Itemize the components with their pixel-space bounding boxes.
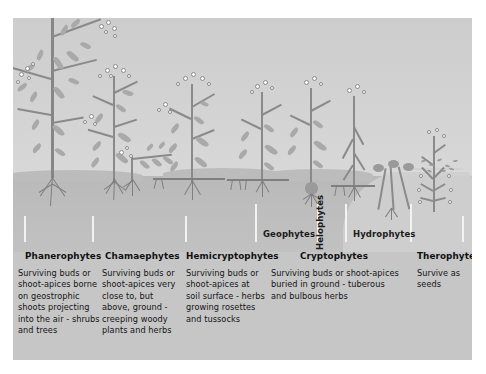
tick-mark [462, 216, 464, 242]
tick-mark [24, 216, 26, 242]
floating-leaf [388, 160, 399, 168]
column-label-hemicryptophytes: Hemicryptophytes [186, 251, 279, 261]
diagram-panel: Geophytes Helophytes Hydrophytes Phanero… [13, 18, 472, 360]
tick-mark [345, 204, 347, 242]
tick-mark [92, 216, 94, 242]
sublabel-hydrophytes: Hydrophytes [353, 229, 415, 239]
column-text-chamaephytes: Surviving buds or shoot-apices very clos… [102, 268, 184, 336]
sublabel-helophytes: Helophytes [315, 195, 325, 250]
column-label-phanerophytes: Phanerophytes [25, 251, 101, 261]
column-text-hemicryptophytes: Surviving buds or shoot-apices at soil s… [186, 268, 266, 325]
tick-mark [255, 204, 257, 242]
column-label-chamaephytes: Chamaephytes [105, 251, 180, 261]
column-text-cryptophytes: Surviving buds or shoot-apices buried in… [271, 268, 401, 302]
floating-leaf [403, 163, 414, 171]
column-text-phanerophytes: Surviving buds or shoot-apices borne on … [18, 268, 100, 336]
ground-mound-left [13, 170, 143, 182]
raunkiaer-life-form-diagram: Geophytes Helophytes Hydrophytes Phanero… [0, 0, 486, 374]
column-text-therophytes: Survive as seeds [417, 268, 472, 291]
floating-leaf [373, 164, 384, 172]
tick-mark [185, 216, 187, 242]
column-label-therophytes: Therophytes [417, 251, 472, 261]
sublabel-geophytes: Geophytes [263, 229, 315, 239]
column-label-cryptophytes: Cryptophytes [300, 251, 368, 261]
